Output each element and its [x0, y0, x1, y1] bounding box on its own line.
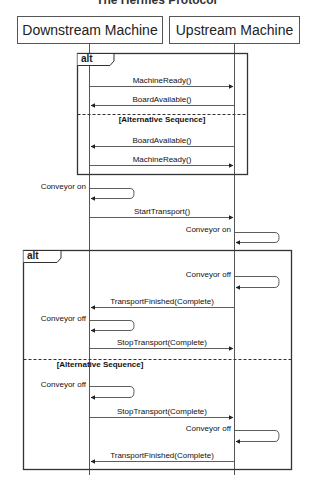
self-loop-arrow	[235, 431, 279, 442]
msg-label: StopTransport(Complete)	[117, 338, 207, 347]
msg-label: Conveyor off	[41, 380, 86, 389]
alt-frame-1-label: alt	[81, 53, 93, 64]
alt-frame-2-label: alt	[27, 250, 39, 261]
msg-label: TransportFinished(Complete)	[110, 297, 214, 306]
msg-label: MachineReady()	[133, 155, 192, 164]
msg-label: Conveyor on	[41, 182, 86, 191]
msg-label: Conveyor off	[186, 424, 231, 433]
self-loop-arrow	[90, 321, 134, 331]
msg-label: StopTransport(Complete)	[117, 407, 207, 416]
msg-label: StartTransport()	[134, 207, 190, 216]
msg-label: BoardAvailable()	[133, 136, 192, 145]
msg-label: BoardAvailable()	[133, 95, 192, 104]
self-loop-arrow	[90, 189, 134, 199]
alt-frame-2-else-guard: [Alternative Sequence]	[57, 360, 144, 369]
alt-frame-1-else-guard: [Alternative Sequence]	[119, 115, 206, 124]
self-loop-arrow	[235, 233, 279, 243]
msg-label: MachineReady()	[133, 76, 192, 85]
self-loop-arrow	[235, 277, 279, 288]
msg-label: Conveyor off	[186, 270, 231, 279]
msg-label: Conveyor off	[41, 314, 86, 323]
self-loop-arrow	[90, 387, 134, 398]
msg-label: TransportFinished(Complete)	[110, 451, 214, 460]
msg-label: Conveyor on	[186, 225, 231, 234]
